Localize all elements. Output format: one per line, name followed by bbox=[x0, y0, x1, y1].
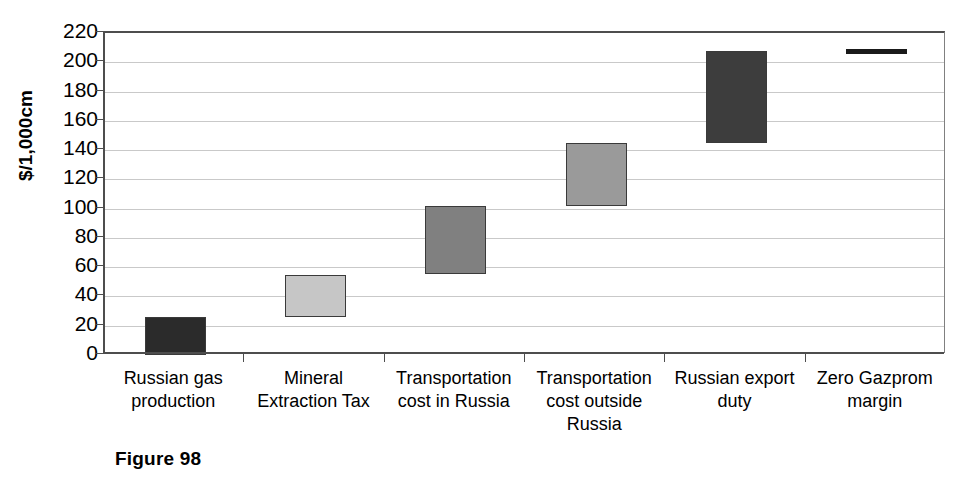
y-tick-label: 120 bbox=[40, 166, 98, 187]
figure-caption: Figure 98 bbox=[115, 448, 201, 470]
x-tick-mark bbox=[664, 353, 665, 362]
y-tick-label: 0 bbox=[40, 342, 98, 363]
x-tick-mark bbox=[384, 353, 385, 362]
waterfall-marker-line bbox=[846, 49, 907, 54]
gridline bbox=[105, 238, 944, 239]
gridline bbox=[105, 150, 944, 151]
y-tick-label: 140 bbox=[40, 137, 98, 158]
y-tick-label: 20 bbox=[40, 313, 98, 334]
gridline bbox=[105, 296, 944, 297]
x-axis-category-label: Russian gas production bbox=[103, 367, 243, 413]
y-tick-label: 40 bbox=[40, 283, 98, 304]
x-axis-category-label: Transportation cost in Russia bbox=[384, 367, 524, 413]
gridline bbox=[105, 62, 944, 63]
plot-area bbox=[103, 31, 945, 353]
gridline bbox=[105, 209, 944, 210]
gridline bbox=[105, 267, 944, 268]
x-tick-mark bbox=[243, 353, 244, 362]
y-tick-label: 60 bbox=[40, 254, 98, 275]
gridline bbox=[105, 326, 944, 327]
waterfall-bar bbox=[706, 51, 767, 143]
y-axis-title: $/1,000cm bbox=[15, 141, 37, 181]
gridline bbox=[105, 92, 944, 93]
waterfall-bar bbox=[425, 206, 486, 275]
figure-container: $/1,000cm 220200180160140120100806040200… bbox=[0, 0, 963, 488]
gridline bbox=[105, 121, 944, 122]
y-tick-label: 100 bbox=[40, 196, 98, 217]
y-tick-label: 80 bbox=[40, 225, 98, 246]
x-axis-category-label: Russian export duty bbox=[664, 367, 804, 413]
waterfall-bar bbox=[145, 317, 206, 355]
y-tick-label: 220 bbox=[40, 20, 98, 41]
x-tick-mark bbox=[805, 353, 806, 362]
gridline bbox=[105, 179, 944, 180]
y-tick-label: 160 bbox=[40, 108, 98, 129]
y-tick-label: 180 bbox=[40, 79, 98, 100]
waterfall-bar bbox=[566, 143, 627, 206]
x-axis-category-label: Transportation cost outside Russia bbox=[524, 367, 664, 436]
x-tick-mark bbox=[524, 353, 525, 362]
waterfall-bar bbox=[285, 275, 346, 317]
y-tick-label: 200 bbox=[40, 49, 98, 70]
x-axis-category-label: Zero Gazprom margin bbox=[805, 367, 945, 413]
x-axis-category-label: Mineral Extraction Tax bbox=[243, 367, 383, 413]
